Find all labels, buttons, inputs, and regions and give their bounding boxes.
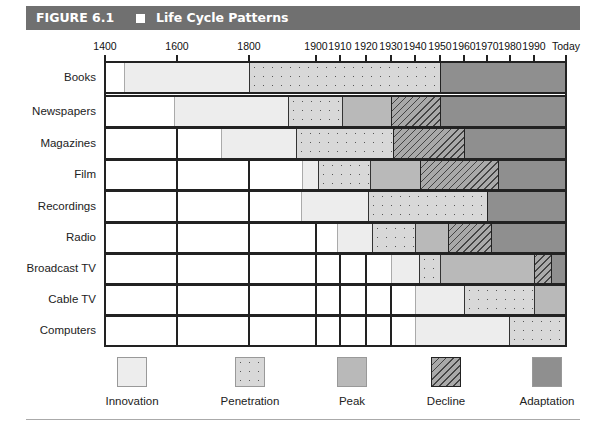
timeline-row: [105, 159, 567, 191]
row-label: Recordings: [0, 200, 96, 212]
phase-peak: [440, 255, 534, 283]
gridline: [365, 317, 367, 345]
x-tick-label: 1930: [379, 40, 402, 52]
row-label: Broadcast TV: [0, 262, 96, 274]
row-label: Radio: [0, 231, 96, 243]
timeline-row: [105, 315, 567, 347]
phase-innovation: [337, 224, 372, 252]
phase-peak: [342, 97, 391, 126]
legend-swatch-decline: [431, 357, 461, 387]
row-label: Magazines: [0, 137, 96, 149]
x-tick-label: Today: [552, 40, 580, 52]
legend-label: Adaptation: [520, 395, 575, 407]
gridline: [315, 224, 317, 252]
phase-adaptation: [464, 129, 566, 158]
gridline: [176, 224, 178, 252]
phase-penetration: [288, 97, 342, 126]
gridline: [315, 286, 317, 314]
timeline-row: [105, 222, 567, 254]
phase-adaptation: [487, 192, 566, 221]
x-tick-label: 1400: [93, 40, 116, 52]
timeline-row: [105, 284, 567, 316]
phase-penetration: [509, 317, 566, 345]
gridline: [176, 286, 178, 314]
gridline: [365, 255, 367, 283]
phase-innovation: [124, 63, 249, 92]
phase-innovation: [415, 317, 509, 345]
x-tick-label: 1800: [237, 40, 260, 52]
timeline-row: [105, 61, 567, 94]
gridline: [176, 192, 178, 221]
legend-swatch-innovation: [117, 357, 147, 387]
row-label: Books: [0, 71, 96, 83]
axis-right-border: [565, 60, 567, 347]
gridline: [248, 317, 250, 345]
x-tick-label: 1920: [354, 40, 377, 52]
legend-label: Innovation: [105, 395, 158, 407]
row-label: Computers: [0, 324, 96, 336]
row-label: Newspapers: [0, 105, 96, 117]
phase-penetration: [368, 192, 487, 221]
gridline: [176, 317, 178, 345]
phase-penetration: [464, 286, 534, 314]
legend-label: Decline: [427, 395, 465, 407]
gridline: [248, 224, 250, 252]
gridline: [248, 161, 250, 189]
phase-penetration: [296, 129, 393, 158]
phase-innovation: [221, 129, 296, 158]
row-label: Film: [0, 168, 96, 180]
gridline: [248, 286, 250, 314]
gridline: [339, 317, 341, 345]
legend-label: Penetration: [221, 395, 280, 407]
timeline-row: [105, 253, 567, 285]
x-tick-label: 1970: [475, 40, 498, 52]
figure-title: Life Cycle Patterns: [156, 6, 289, 30]
gridline: [390, 317, 392, 345]
legend-swatch-adaptation: [532, 357, 562, 387]
square-bullet-icon: [136, 14, 145, 23]
gridline: [365, 286, 367, 314]
timeline-row: [105, 95, 567, 128]
phase-peak: [415, 224, 448, 252]
phase-decline: [448, 224, 491, 252]
gridline: [176, 129, 178, 158]
gridline: [315, 255, 317, 283]
gridline: [176, 255, 178, 283]
x-tick-label: 1600: [165, 40, 188, 52]
phase-decline: [534, 255, 551, 283]
phase-adaptation: [498, 161, 566, 189]
gridline: [390, 286, 392, 314]
axis-left-border: [104, 60, 106, 347]
figure-header: FIGURE 6.1 Life Cycle Patterns: [26, 6, 580, 30]
phase-innovation: [391, 255, 419, 283]
phase-penetration: [419, 255, 440, 283]
phase-innovation: [302, 161, 318, 189]
phase-penetration: [318, 161, 370, 189]
phase-decline: [393, 129, 464, 158]
x-tick-label: 1900: [304, 40, 327, 52]
legend-label: Peak: [339, 395, 365, 407]
row-label: Cable TV: [0, 293, 96, 305]
phase-penetration: [249, 63, 440, 92]
phase-adaptation: [440, 97, 566, 126]
x-tick-label: 1960: [452, 40, 475, 52]
phase-innovation: [415, 286, 464, 314]
x-tick-label: 1910: [328, 40, 351, 52]
figure-number: FIGURE 6.1: [36, 6, 114, 30]
legend-swatch-penetration: [235, 357, 265, 387]
gridline: [176, 161, 178, 189]
timeline-row: [105, 190, 567, 223]
x-tick-label: 1940: [403, 40, 426, 52]
legend-swatch-peak: [337, 357, 367, 387]
phase-decline: [391, 97, 440, 126]
phase-penetration: [372, 224, 415, 252]
phase-peak: [534, 286, 566, 314]
x-tick-label: 1990: [522, 40, 545, 52]
timeline-row: [105, 127, 567, 160]
gridline: [339, 286, 341, 314]
gridline: [339, 255, 341, 283]
x-tick-label: 1950: [428, 40, 451, 52]
phase-innovation: [301, 192, 368, 221]
x-tick-label: 1980: [498, 40, 521, 52]
gridline: [248, 255, 250, 283]
